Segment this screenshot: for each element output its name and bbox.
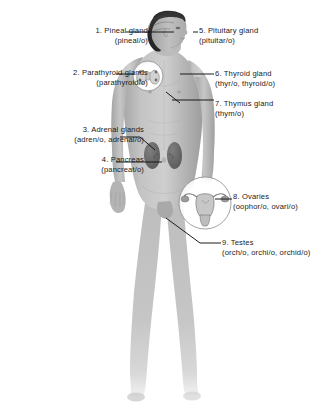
label-ovaries-name: 8. Ovaries xyxy=(233,192,331,202)
nipple-right xyxy=(177,90,181,93)
label-pineal-gland-combining: (pineal/o) xyxy=(16,36,148,46)
leg-left xyxy=(130,196,162,397)
label-pituitary-gland-combining: (pituitar/o) xyxy=(199,36,329,46)
label-adrenal-glands-name: 3. Adrenal glands xyxy=(4,125,144,135)
label-thyroid-gland-combining: (thyr/o, thyroid/o) xyxy=(215,79,331,89)
label-testes-combining: (orch/o, orchi/o, orchid/o) xyxy=(222,248,332,258)
label-ovaries: 8. Ovaries (oophor/o, ovari/o) xyxy=(233,192,331,211)
uterus-ovaries-inset xyxy=(179,177,231,229)
label-pineal-gland-name: 1. Pineal gland xyxy=(16,26,148,36)
foot-left xyxy=(127,393,145,402)
label-thymus-gland-combining: (thym/o) xyxy=(215,109,331,119)
label-pineal-gland: 1. Pineal gland (pineal/o) xyxy=(16,26,148,45)
endocrine-system-diagram: 1. Pineal gland (pineal/o) 2. Parathyroi… xyxy=(0,0,332,410)
label-ovaries-combining: (oophor/o, ovari/o) xyxy=(233,202,331,212)
label-thyroid-gland: 6. Thyroid gland (thyr/o, thyroid/o) xyxy=(215,69,331,88)
label-pituitary-gland: 5. Pituitary gland (pituitar/o) xyxy=(199,26,329,45)
hand-left xyxy=(110,181,126,213)
label-thymus-gland-name: 7. Thymus gland xyxy=(215,99,331,109)
label-thyroid-gland-name: 6. Thyroid gland xyxy=(215,69,331,79)
eye xyxy=(176,27,181,30)
label-parathyroid-glands: 2. Parathyroid glands (parathyroid/o) xyxy=(4,68,148,87)
label-thymus-gland: 7. Thymus gland (thym/o) xyxy=(215,99,331,118)
label-pancreas-combining: (pancreat/o) xyxy=(30,165,144,175)
label-parathyroid-glands-combining: (parathyroid/o) xyxy=(4,78,148,88)
label-pancreas-name: 4. Pancreas xyxy=(30,155,144,165)
label-pituitary-gland-name: 5. Pituitary gland xyxy=(199,26,329,36)
label-parathyroid-glands-name: 2. Parathyroid glands xyxy=(4,68,148,78)
label-adrenal-glands: 3. Adrenal glands (adren/o, adrenal/o) xyxy=(4,125,144,144)
label-testes: 9. Testes (orch/o, orchi/o, orchid/o) xyxy=(222,238,332,257)
label-testes-name: 9. Testes xyxy=(222,238,332,248)
foot-right xyxy=(183,392,201,401)
ovary-left xyxy=(181,196,189,202)
label-pancreas: 4. Pancreas (pancreat/o) xyxy=(30,155,144,174)
label-adrenal-glands-combining: (adren/o, adrenal/o) xyxy=(4,135,144,145)
